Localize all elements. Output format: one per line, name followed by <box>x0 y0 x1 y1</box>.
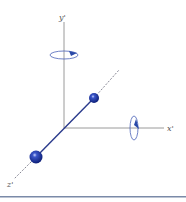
x-axis-label: x' <box>167 124 174 133</box>
bottom-rule <box>0 196 186 198</box>
y-axis-label: y' <box>58 13 66 22</box>
rotating-axes-diagram: y' x' z' <box>0 0 186 202</box>
large-sphere-mass <box>30 151 43 164</box>
small-sphere-mass <box>89 93 99 103</box>
z-axis-far-segment <box>94 70 119 98</box>
z-axis-label: z' <box>6 180 13 189</box>
